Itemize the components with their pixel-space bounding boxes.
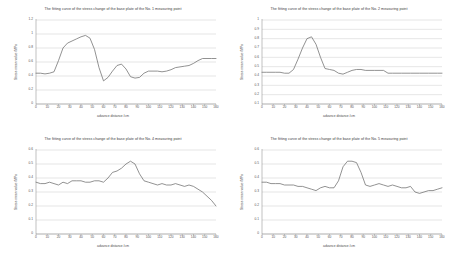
x-axis-tick-label: 80 [120,236,132,239]
x-axis-tick-label: 70 [335,236,347,239]
y-axis-title: Stress mean value /MPa [14,44,18,80]
x-axis-tick-label: 100 [369,236,381,239]
x-axis-tick-label: 150 [199,106,211,109]
y-axis-tick-label: 0.4 [20,74,33,77]
x-axis-tick-label: 0 [256,106,268,109]
chart-no5[interactable]: The fitting curve of the stress change o… [226,130,452,260]
x-axis-tick-label: 140 [188,236,200,239]
y-axis-tick-label: 0.6 [20,60,33,63]
x-axis-tick-label: 30 [290,236,302,239]
x-axis-tick-label: 20 [279,236,291,239]
x-axis-tick-label: 150 [425,236,437,239]
plot-area-no5: 00.10.20.30.40.50.6010203040506070809010… [226,130,452,260]
chart-no4[interactable]: The fitting curve of the stress change o… [0,130,226,260]
x-axis-tick-label: 90 [357,236,369,239]
x-axis-tick-label: 90 [131,236,143,239]
x-axis-tick-label: 40 [75,236,87,239]
y-axis-tick-label: 0.3 [246,190,259,193]
x-axis-tick-label: 60 [98,106,110,109]
x-axis-tick-label: 150 [199,236,211,239]
x-axis-tick-label: 40 [75,106,87,109]
x-axis-title: advance distance /cm [0,114,226,118]
x-axis-tick-label: 0 [30,236,42,239]
series-line [36,35,216,81]
y-axis-tick-label: 0.6 [20,148,33,151]
x-axis-tick-label: 90 [131,106,143,109]
y-axis-tick-label: 0.9 [246,28,259,31]
x-axis-tick-label: 120 [391,106,403,109]
y-axis-tick-label: 0.1 [246,102,259,105]
chart-no2[interactable]: The fitting curve of the stress change o… [226,0,452,130]
plot-svg [0,0,226,130]
x-axis-tick-label: 110 [154,236,166,239]
chart-no1[interactable]: The fitting curve of the stress change o… [0,0,226,130]
y-axis-tick-label: 0.7 [246,46,259,49]
x-axis-tick-label: 40 [301,236,313,239]
y-axis-tick-label: 0.2 [20,88,33,91]
x-axis-tick-label: 30 [64,236,76,239]
plot-svg [226,130,452,260]
x-axis-tick-label: 140 [188,106,200,109]
y-axis-tick-label: 0.8 [20,46,33,49]
x-axis-tick-label: 120 [165,236,177,239]
y-axis-tick-label: 0.5 [246,162,259,165]
x-axis-tick-label: 10 [267,236,279,239]
y-axis-tick-label: 0.3 [246,84,259,87]
x-axis-tick-label: 70 [335,106,347,109]
x-axis-tick-label: 50 [86,106,98,109]
plot-svg [0,130,226,260]
x-axis-tick-label: 60 [324,106,336,109]
series-line [262,161,442,193]
x-axis-tick-label: 30 [64,106,76,109]
y-axis-tick-label: 0 [20,232,33,235]
y-axis-tick-label: 0.3 [20,190,33,193]
y-axis-tick-label: 1 [246,18,259,21]
plot-area-no1: 00.20.40.60.811.201020304050607080901001… [0,0,226,130]
x-axis-tick-label: 50 [312,106,324,109]
y-axis-tick-label: 0.4 [246,176,259,179]
x-axis-tick-label: 150 [425,106,437,109]
x-axis-tick-label: 100 [143,106,155,109]
y-axis-tick-label: 1 [20,32,33,35]
y-axis-title: Stress mean value /MPa [240,174,244,210]
x-axis-tick-label: 130 [176,106,188,109]
worksheet-canvas: The fitting curve of the stress change o… [0,0,452,260]
x-axis-tick-label: 100 [143,236,155,239]
x-axis-tick-label: 160 [210,236,222,239]
plot-area-no4: 00.10.20.30.40.50.6010203040506070809010… [0,130,226,260]
x-axis-tick-label: 80 [346,236,358,239]
x-axis-tick-label: 100 [369,106,381,109]
x-axis-tick-label: 90 [357,106,369,109]
series-line [36,161,216,206]
x-axis-tick-label: 20 [279,106,291,109]
x-axis-tick-label: 160 [436,106,448,109]
y-axis-tick-label: 0.1 [20,218,33,221]
x-axis-tick-label: 130 [402,236,414,239]
x-axis-tick-label: 160 [436,236,448,239]
y-axis-tick-label: 0.5 [246,65,259,68]
x-axis-tick-label: 110 [154,106,166,109]
x-axis-tick-label: 20 [53,106,65,109]
y-axis-tick-label: 0.5 [20,162,33,165]
x-axis-tick-label: 60 [98,236,110,239]
y-axis-tick-label: 0.1 [246,218,259,221]
y-axis-tick-label: 0.4 [246,74,259,77]
y-axis-tick-label: 0.2 [246,93,259,96]
x-axis-title: advance distance /cm [226,244,452,248]
y-axis-title: Stress mean value /MPa [14,174,18,210]
x-axis-tick-label: 140 [414,236,426,239]
x-axis-tick-label: 10 [267,106,279,109]
x-axis-tick-label: 110 [380,236,392,239]
y-axis-tick-label: 0.4 [20,176,33,179]
x-axis-title: advance distance /cm [0,244,226,248]
x-axis-tick-label: 0 [30,106,42,109]
x-axis-tick-label: 60 [324,236,336,239]
series-line [262,37,442,74]
x-axis-tick-label: 70 [109,236,121,239]
plot-area-no2: 0.10.20.30.40.50.60.70.80.91010203040506… [226,0,452,130]
plot-svg [226,0,452,130]
y-axis-title: Stress mean value /MPa [240,44,244,80]
x-axis-tick-label: 80 [120,106,132,109]
y-axis-tick-label: 0 [246,232,259,235]
x-axis-tick-label: 160 [210,106,222,109]
